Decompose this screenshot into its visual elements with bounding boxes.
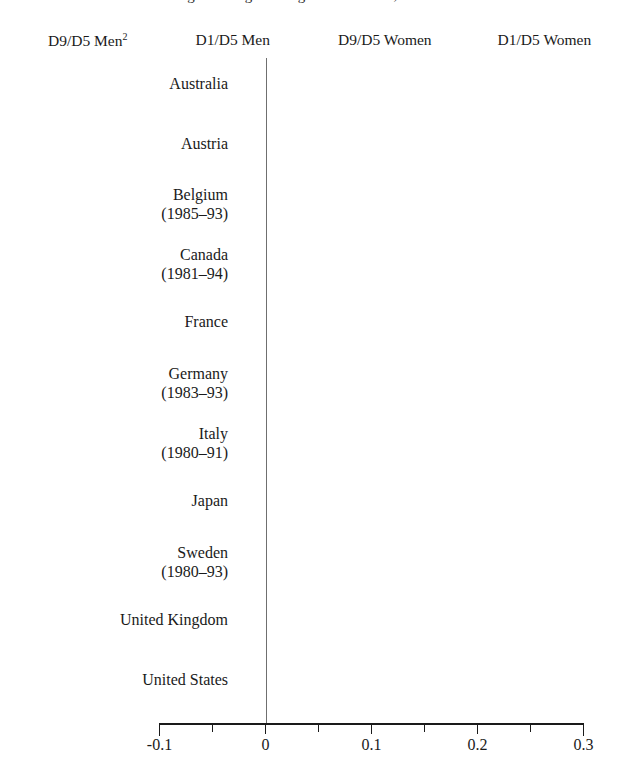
category-label: Sweden (1980–93) [28, 543, 228, 581]
x-axis-tick [212, 723, 214, 732]
bar-d1-d5-women [160, 692, 266, 701]
bar-d9-d5-men [266, 124, 312, 133]
bar-d9-d5-women [266, 562, 349, 571]
x-axis: -0.100.10.20.3 [0, 723, 623, 778]
x-axis-tick [265, 723, 267, 734]
category-group: Australia [0, 64, 623, 124]
legend-item-3: D1/D5 Women [470, 31, 592, 48]
bar-d1-d5-women [266, 453, 379, 462]
legend-swatch-icon [310, 31, 329, 48]
legend-label: D1/D5 Women [498, 31, 592, 48]
category-label: Germany (1983–93) [28, 364, 228, 402]
legend-item-0: D9/D5 Men2 [20, 28, 127, 49]
bar-d1-d5-men [237, 253, 266, 262]
bar-d9-d5-men [250, 183, 266, 192]
bar-d9-d5-men [266, 660, 531, 669]
bar-d1-d5-men [188, 671, 265, 680]
bar-d1-d5-women [232, 572, 266, 581]
x-axis-tick-label: 0.2 [468, 736, 488, 754]
bar-d9-d5-men [266, 541, 277, 550]
bar-d1-d5-women [266, 96, 289, 105]
bar-d1-d5-men [263, 492, 265, 501]
bar-d9-d5-women [266, 145, 327, 154]
legend-swatch-icon [167, 31, 186, 48]
x-axis-tick-label: 0.3 [574, 736, 594, 754]
bar-d1-d5-men [266, 194, 274, 203]
bar-d9-d5-men [266, 600, 518, 609]
category-label: Belgium (1985–93) [28, 185, 228, 223]
x-axis-tick [583, 723, 585, 736]
legend-swatch-icon [470, 31, 489, 48]
category-group: Italy (1980–91) [0, 422, 623, 482]
bar-d9-d5-women [266, 264, 282, 273]
x-axis-tick [477, 723, 479, 734]
category-label: Italy (1980–91) [28, 424, 228, 462]
x-axis-tick-label: 0.1 [362, 736, 382, 754]
bar-d1-d5-women [179, 632, 266, 641]
category-group: Germany (1983–93) [0, 362, 623, 422]
chart-legend: D9/D5 Men2D1/D5 MenD9/D5 WomenD1/D5 Wome… [14, 28, 614, 50]
x-axis-tick [371, 723, 373, 734]
category-group: Austria [0, 124, 623, 184]
bar-d1-d5-men [266, 432, 356, 441]
legend-footnote-marker: 2 [122, 31, 127, 42]
bar-d1-d5-men [266, 313, 285, 322]
category-group: Sweden (1980–93) [0, 541, 623, 601]
x-axis-tick [159, 723, 161, 736]
bar-d1-d5-women [226, 334, 265, 343]
x-axis-tick [530, 723, 532, 732]
category-label: Canada (1981–94) [28, 245, 228, 283]
category-label: Japan [28, 491, 228, 510]
bar-d9-d5-women [266, 323, 298, 332]
page-title: Changes in Log Earnings Differentials, 1… [155, 0, 468, 4]
bar-d1-d5-women [236, 155, 266, 164]
bar-d9-d5-men [266, 302, 370, 311]
bar-d9-d5-women [266, 443, 385, 452]
chart-title-clipped: Changes in Log Earnings Differentials, 1… [0, 0, 623, 14]
bar-d1-d5-women [266, 394, 393, 403]
legend-label: D9/D5 Men2 [48, 28, 127, 49]
bar-d1-d5-men [266, 373, 316, 382]
category-label: Austria [28, 134, 228, 153]
category-label: France [28, 312, 228, 331]
category-group: United Kingdom [0, 600, 623, 660]
x-axis-tick-label: -0.1 [147, 736, 172, 754]
earnings-differentials-chart: Changes in Log Earnings Differentials, 1… [0, 0, 623, 778]
bar-d9-d5-women [266, 502, 308, 511]
bar-d1-d5-men [246, 75, 265, 84]
bar-d9-d5-women [266, 383, 289, 392]
bar-d1-d5-women [234, 274, 266, 283]
category-group: United States [0, 660, 623, 720]
x-axis-tick [318, 723, 320, 732]
bar-d9-d5-women [266, 621, 502, 630]
legend-label: D1/D5 Men [195, 31, 269, 48]
category-label: Australia [28, 74, 228, 93]
bar-d9-d5-men [266, 481, 370, 490]
legend-item-1: D1/D5 Men [167, 31, 269, 48]
x-axis-tick [424, 723, 426, 732]
legend-item-2: D9/D5 Women [310, 31, 432, 48]
bar-d9-d5-men [266, 362, 274, 371]
bar-d9-d5-women [266, 85, 319, 94]
bar-d9-d5-men [266, 243, 322, 252]
plot-area: AustraliaAustriaBelgium (1985–93)Canada … [0, 58, 623, 723]
category-group: Japan [0, 481, 623, 541]
legend-label: D9/D5 Women [338, 31, 432, 48]
bar-d9-d5-men [266, 64, 327, 73]
bar-d9-d5-women [266, 681, 547, 690]
category-group: Belgium (1985–93) [0, 183, 623, 243]
bar-d1-d5-women [221, 215, 266, 224]
bar-d1-d5-men [193, 611, 265, 620]
bar-d9-d5-men [266, 422, 395, 431]
bar-d1-d5-men [234, 551, 266, 560]
category-group: France [0, 302, 623, 362]
legend-swatch-icon [20, 31, 39, 48]
bar-d9-d5-women [215, 204, 266, 213]
bar-d1-d5-men [246, 134, 265, 143]
bar-d1-d5-women [264, 513, 265, 522]
category-group: Canada (1981–94) [0, 243, 623, 303]
x-axis-tick-label: 0 [262, 736, 270, 754]
